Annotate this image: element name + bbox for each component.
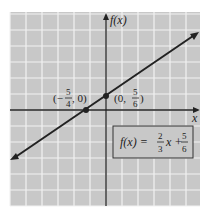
grid-background xyxy=(10,12,200,206)
svg-text:(0,: (0, xyxy=(114,92,126,105)
y-axis-label: f(x) xyxy=(110,13,127,27)
svg-text:): ) xyxy=(140,92,144,105)
svg-text:2: 2 xyxy=(158,131,163,141)
x-intercept-point xyxy=(83,107,89,113)
equation-lhs: f(x) = xyxy=(120,135,148,149)
svg-text:3: 3 xyxy=(158,144,163,154)
equation-box: f(x) = 2 3 x + 5 6 xyxy=(113,126,193,158)
y-intercept-point xyxy=(103,93,109,99)
svg-text:4: 4 xyxy=(66,99,71,109)
svg-text:6: 6 xyxy=(133,99,138,109)
svg-text:, 0): , 0) xyxy=(72,92,87,105)
svg-text:6: 6 xyxy=(182,144,187,154)
svg-text:5: 5 xyxy=(133,87,138,97)
svg-text:(−: (− xyxy=(53,92,63,105)
linear-function-graph: f(x) x (− 5 4 , 0) (0, 5 6 ) f(x) = 2 3 … xyxy=(0,0,206,213)
svg-text:x +: x + xyxy=(165,135,182,149)
svg-text:5: 5 xyxy=(182,131,187,141)
svg-text:5: 5 xyxy=(66,87,71,97)
x-axis-label: x xyxy=(191,111,198,125)
